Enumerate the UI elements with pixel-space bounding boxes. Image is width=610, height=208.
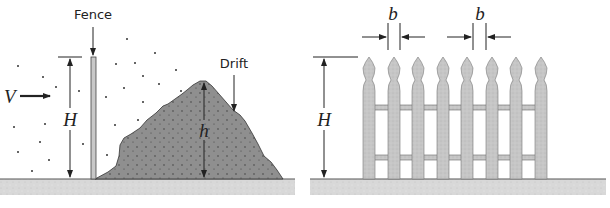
pickets: [363, 57, 547, 179]
picket: [486, 57, 498, 179]
wind-velocity-label: V: [4, 86, 18, 107]
fence-label: Fence: [74, 7, 112, 22]
picket: [412, 57, 424, 179]
picket: [363, 57, 375, 179]
picket: [461, 57, 473, 179]
snow-fence-diagram: Fence V H Drift h: [0, 0, 610, 208]
drift-height-label: h: [199, 120, 209, 141]
gap-dimension-1: b: [362, 3, 425, 50]
picket: [510, 57, 522, 179]
fence-height-label: H: [62, 109, 78, 130]
drift-label: Drift: [220, 56, 248, 71]
right-panel-picket-fence: H b b: [310, 3, 606, 195]
gap-label-1: b: [388, 3, 398, 24]
picket: [437, 57, 449, 179]
fence-post: [91, 57, 96, 179]
ground-left: [0, 179, 295, 195]
snow-drift: [95, 81, 283, 179]
gap-label-2: b: [475, 3, 485, 24]
ground-right: [310, 179, 606, 195]
picket-height-label: H: [316, 109, 332, 130]
left-panel-drift-diagram: Fence V H Drift h: [0, 7, 295, 195]
picket: [388, 57, 400, 179]
picket: [535, 57, 547, 179]
gap-dimension-2: b: [447, 3, 511, 50]
